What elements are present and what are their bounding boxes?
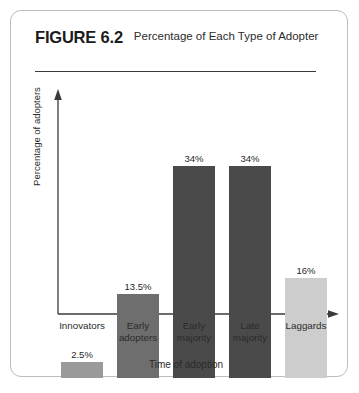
- category-label-line: majority: [219, 332, 281, 344]
- bar-late-majority[interactable]: [229, 166, 271, 378]
- bar-early-majority[interactable]: [173, 166, 215, 378]
- figure-card: FIGURE 6.2 Percentage of Each Type of Ad…: [10, 10, 348, 377]
- category-label-line: Early: [107, 320, 169, 332]
- x-axis-arrow-icon: [328, 310, 339, 318]
- category-label-innovators: Innovators: [51, 320, 113, 332]
- category-label-line: Early: [163, 320, 225, 332]
- category-label-line: Innovators: [51, 320, 113, 332]
- category-label-early-adopters: Early adopters: [107, 320, 169, 344]
- bar-value-early-adopters: 13.5%: [109, 281, 167, 292]
- bar-column-laggards: 16%: [285, 75, 327, 378]
- bar-value-early-majority: 34%: [165, 153, 223, 164]
- y-axis-label: Percentage of adopters: [31, 57, 42, 217]
- bar-chart: Percentage of adopters 2.5% 13.5% 34% 34…: [11, 11, 349, 378]
- bar-column-innovators: 2.5%: [61, 75, 103, 378]
- category-label-line: adopters: [107, 332, 169, 344]
- category-label-laggards: Laggards: [275, 320, 337, 332]
- category-label-late-majority: Late majority: [219, 320, 281, 344]
- x-axis-label: Time of adoption: [61, 359, 311, 370]
- bar-value-late-majority: 34%: [221, 153, 279, 164]
- category-label-line: majority: [163, 332, 225, 344]
- category-label-line: Late: [219, 320, 281, 332]
- bar-value-laggards: 16%: [277, 265, 335, 276]
- category-label-line: Laggards: [275, 320, 337, 332]
- category-label-early-majority: Early majority: [163, 320, 225, 344]
